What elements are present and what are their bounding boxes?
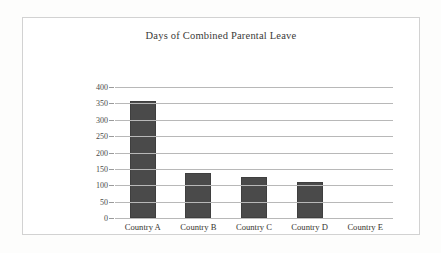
gridline xyxy=(115,185,393,186)
y-axis-tick-label: 50 xyxy=(100,197,108,206)
x-axis-category-label: Country A xyxy=(115,219,171,232)
gridline xyxy=(115,202,393,203)
y-axis-tick-label: 400 xyxy=(96,83,108,92)
gridline xyxy=(115,136,393,137)
y-axis-tick-mark xyxy=(109,169,114,170)
y-axis-tick-mark xyxy=(109,136,114,137)
y-axis-tick-mark xyxy=(109,218,114,219)
y-axis-tick-mark xyxy=(109,87,114,88)
y-axis-tick-mark xyxy=(109,103,114,104)
bar xyxy=(185,173,211,218)
y-axis-tick-mark xyxy=(109,202,114,203)
y-axis-tick-label: 200 xyxy=(96,148,108,157)
bar xyxy=(297,182,323,218)
y-axis-tick-mark xyxy=(109,185,114,186)
y-axis-tick-label: 150 xyxy=(96,164,108,173)
y-axis-tick-mark xyxy=(109,120,114,121)
x-axis-category-label: Country B xyxy=(171,219,227,232)
y-axis-tick-label: 0 xyxy=(104,214,108,223)
x-axis-category-labels: Country ACountry BCountry CCountry DCoun… xyxy=(115,219,393,232)
plot-area: 400350300250200150100500 Country ACountr… xyxy=(93,70,423,240)
y-axis-tick-label: 350 xyxy=(96,99,108,108)
bar xyxy=(130,101,156,218)
chart-frame: Days of Combined Parental Leave 40035030… xyxy=(22,17,420,235)
y-axis-tick-label: 250 xyxy=(96,132,108,141)
x-axis-category-label: Country E xyxy=(337,219,393,232)
gridline xyxy=(115,87,393,88)
y-axis-tick-label: 300 xyxy=(96,115,108,124)
x-axis-category-label: Country C xyxy=(226,219,282,232)
chart-title: Days of Combined Parental Leave xyxy=(23,30,419,41)
x-axis-category-label: Country D xyxy=(282,219,338,232)
bar xyxy=(241,177,267,218)
gridline xyxy=(115,103,393,104)
grid-and-bars: 400350300250200150100500 xyxy=(115,87,393,218)
gridline xyxy=(115,169,393,170)
y-axis-tick-label: 100 xyxy=(96,181,108,190)
gridline xyxy=(115,120,393,121)
gridline xyxy=(115,153,393,154)
y-axis-tick-mark xyxy=(109,153,114,154)
